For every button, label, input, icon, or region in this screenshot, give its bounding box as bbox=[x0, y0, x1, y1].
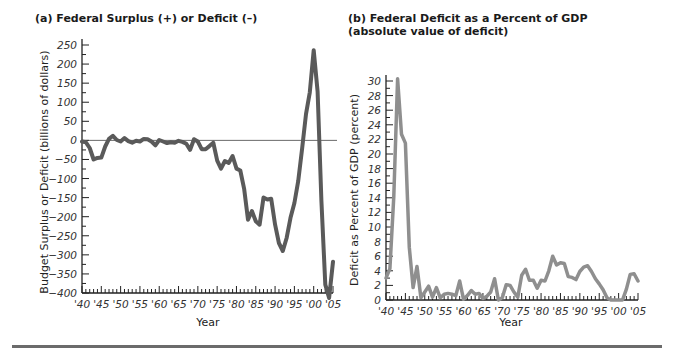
y-tick-label: −150 bbox=[48, 192, 77, 204]
y-tick-label: −350 bbox=[48, 268, 77, 280]
x-tick-label: '70 bbox=[190, 298, 207, 310]
x-tick-label: '55 bbox=[436, 305, 453, 317]
y-tick-label: 100 bbox=[57, 96, 77, 108]
y-tick-label: 16 bbox=[368, 177, 382, 189]
y-tick-label: 150 bbox=[57, 77, 77, 89]
y-tick-label: −50 bbox=[55, 153, 77, 165]
y-tick-label: 2 bbox=[374, 279, 381, 291]
x-tick-label: '60 bbox=[455, 305, 472, 317]
x-tick-label: '05 bbox=[325, 298, 342, 310]
y-tick-label: 22 bbox=[368, 133, 382, 145]
y-tick-label: 50 bbox=[64, 115, 78, 127]
x-tick-label: '95 bbox=[591, 305, 608, 317]
y-tick-label: 26 bbox=[368, 104, 382, 116]
x-tick-label: '40 bbox=[378, 305, 395, 317]
y-tick-label: 28 bbox=[368, 90, 382, 102]
y-tick-label: −300 bbox=[48, 249, 77, 261]
y-tick-label: 6 bbox=[374, 250, 381, 262]
x-tick-label: '00 bbox=[306, 298, 323, 310]
chart-a-xlabel: Year bbox=[195, 316, 220, 329]
data-line bbox=[82, 50, 333, 298]
charts-canvas: 250200150100500−50−100−150−200−250−300−3… bbox=[0, 0, 674, 355]
x-tick-label: '90 bbox=[267, 298, 284, 310]
x-tick-label: '50 bbox=[112, 298, 129, 310]
y-tick-label: 4 bbox=[374, 265, 381, 277]
y-tick-label: 18 bbox=[368, 163, 382, 175]
y-tick-label: 200 bbox=[57, 58, 77, 70]
y-tick-label: 20 bbox=[368, 148, 382, 160]
x-tick-label: '80 bbox=[228, 298, 245, 310]
x-tick-label: '55 bbox=[132, 298, 149, 310]
x-tick-label: '80 bbox=[533, 305, 550, 317]
x-tick-label: '65 bbox=[475, 305, 492, 317]
x-tick-label: '45 bbox=[93, 298, 110, 310]
x-tick-label: '85 bbox=[552, 305, 569, 317]
chart-b-deficit-pct-gdp: 302826242220181614121086420'40'45'50'55'… bbox=[368, 75, 647, 317]
y-tick-label: 0 bbox=[70, 134, 77, 146]
y-tick-label: −200 bbox=[48, 211, 77, 223]
x-tick-label: '65 bbox=[170, 298, 187, 310]
x-tick-label: '90 bbox=[572, 305, 589, 317]
chart-a-ylabel: Budget Surplus or Deficit (billions of d… bbox=[38, 50, 51, 293]
y-tick-label: 24 bbox=[368, 119, 381, 131]
bottom-divider bbox=[12, 345, 662, 348]
y-tick-label: 10 bbox=[368, 221, 382, 233]
data-line bbox=[386, 79, 638, 300]
chart-b-ylabel: Deficit as Percent of GDP (percent) bbox=[348, 94, 361, 286]
x-tick-label: '75 bbox=[209, 298, 226, 310]
y-tick-label: 12 bbox=[368, 206, 382, 218]
x-tick-label: '85 bbox=[248, 298, 265, 310]
y-tick-label: −250 bbox=[48, 230, 77, 242]
x-tick-label: '05 bbox=[630, 305, 647, 317]
x-tick-label: '95 bbox=[286, 298, 303, 310]
chart-b-xlabel: Year bbox=[498, 316, 523, 329]
x-tick-label: '45 bbox=[397, 305, 414, 317]
chart-a-surplus-deficit: 250200150100500−50−100−150−200−250−300−3… bbox=[48, 39, 341, 310]
x-tick-label: '50 bbox=[417, 305, 434, 317]
x-tick-label: '40 bbox=[74, 298, 91, 310]
y-tick-label: 250 bbox=[57, 39, 77, 51]
x-tick-label: '00 bbox=[610, 305, 627, 317]
y-tick-label: 30 bbox=[368, 75, 382, 87]
y-tick-label: 14 bbox=[368, 192, 381, 204]
y-tick-label: 8 bbox=[374, 236, 381, 248]
x-tick-label: '60 bbox=[151, 298, 168, 310]
y-tick-label: −100 bbox=[48, 173, 77, 185]
